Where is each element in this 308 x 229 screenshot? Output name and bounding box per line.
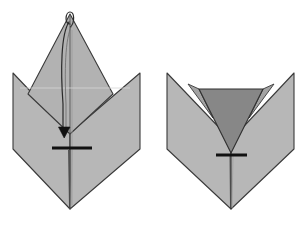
origami-diagram-root: [0, 0, 308, 229]
origami-diagram-svg: [0, 0, 308, 229]
right-panel-center-vertical-crease: [230, 155, 231, 208]
